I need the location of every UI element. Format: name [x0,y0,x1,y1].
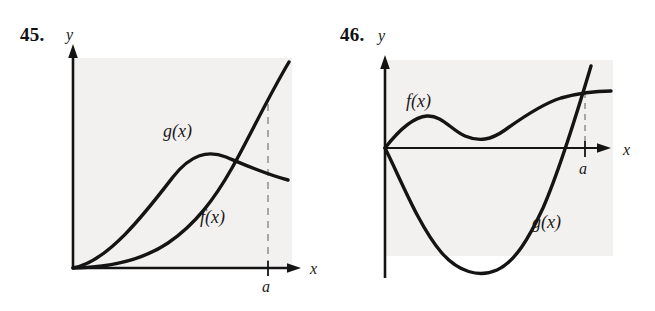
y-axis-label-46: y [376,27,386,45]
y-axis-arrowhead-icon [68,44,78,58]
y-axis-label-45: y [64,26,74,44]
x-axis-label-46: x [622,141,630,158]
plot-45: y x a g(x) f(x) [0,0,328,311]
plot-46: y x a f(x) g(x) [327,0,655,311]
tick-label-a-46: a [579,160,587,177]
x-axis-arrowhead-icon [287,263,301,273]
figure-46: 46. y x a f(x) g(x) [327,0,655,311]
curve-label-g-45: g(x) [163,121,192,142]
plot-background-panel [73,58,292,268]
curve-label-f-45: f(x) [200,207,225,228]
plot-background-panel [385,60,613,256]
figure-45: 45. y x a g(x) f(x) [0,0,328,311]
x-axis-label-45: x [309,260,317,277]
tick-label-a-45: a [262,278,270,295]
curve-label-g-46: g(x) [532,212,561,233]
curve-label-f-46: f(x) [406,91,431,112]
figure-pair-page: 45. y x a g(x) f(x) [0,0,655,311]
